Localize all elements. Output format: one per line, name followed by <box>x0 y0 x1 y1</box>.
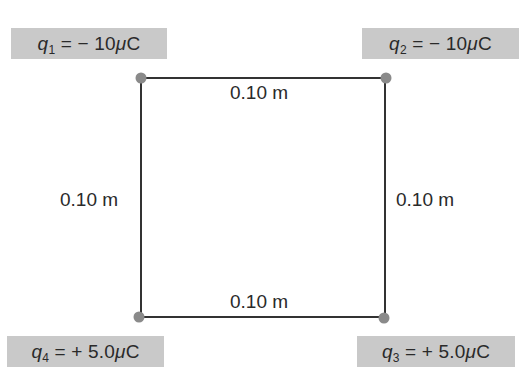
charge-value: 10 <box>446 33 468 54</box>
charge-label-q1: q1 = − 10μC <box>11 28 167 59</box>
equals-sign: = <box>55 33 77 54</box>
charge-symbol: q <box>38 33 49 54</box>
square-edge-right <box>384 78 386 318</box>
charge-unit: C <box>476 341 490 362</box>
charge-dot-q3 <box>379 313 390 324</box>
charge-label-q2: q2 = − 10μC <box>362 28 519 59</box>
charge-symbol: q <box>31 341 42 362</box>
unit-prefix: μ <box>116 33 127 54</box>
charge-value: 10 <box>94 33 116 54</box>
dimension-label-bottom: 0.10 m <box>230 291 288 313</box>
charge-value: 5.0 <box>439 341 466 362</box>
charge-unit: C <box>126 341 140 362</box>
charge-sign: − <box>429 33 446 54</box>
dimension-label-left: 0.10 m <box>60 189 118 211</box>
unit-prefix: μ <box>467 33 478 54</box>
equals-sign: = <box>407 33 429 54</box>
charge-label-q4: q4 = + 5.0μC <box>7 336 164 367</box>
unit-prefix: μ <box>115 341 126 362</box>
charge-dot-q1 <box>136 73 147 84</box>
square-edge-top <box>141 77 386 79</box>
equals-sign: = <box>400 341 422 362</box>
charge-subscript: 2 <box>400 43 407 57</box>
dimension-label-right: 0.10 m <box>396 189 454 211</box>
charge-dot-q2 <box>381 73 392 84</box>
charge-subscript: 3 <box>393 351 400 365</box>
charge-subscript: 4 <box>42 351 49 365</box>
charge-unit: C <box>478 33 492 54</box>
charge-unit: C <box>126 33 140 54</box>
charge-symbol: q <box>382 341 393 362</box>
charge-label-q3: q3 = + 5.0μC <box>357 336 515 367</box>
charge-sign: + <box>422 341 439 362</box>
charge-dot-q4 <box>134 312 145 323</box>
dimension-label-top: 0.10 m <box>230 82 288 104</box>
charge-sign: − <box>78 33 95 54</box>
equals-sign: = <box>49 341 71 362</box>
unit-prefix: μ <box>466 341 477 362</box>
charge-symbol: q <box>389 33 400 54</box>
charge-sign: + <box>71 341 88 362</box>
square-edge-left <box>140 78 142 317</box>
charge-value: 5.0 <box>88 341 115 362</box>
square-edge-bottom <box>139 316 384 318</box>
